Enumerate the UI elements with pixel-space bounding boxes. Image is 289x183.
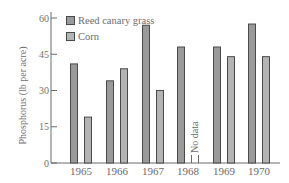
bar-corn-1967 bbox=[157, 91, 164, 164]
y-tick-label: 15 bbox=[39, 121, 49, 132]
legend-swatch-reed-icon bbox=[66, 16, 75, 25]
bar-reed-1969 bbox=[214, 47, 221, 163]
bar-corn-1966 bbox=[121, 69, 128, 163]
bar-corn-1970 bbox=[263, 57, 270, 163]
x-tick-label: 1969 bbox=[213, 165, 236, 177]
x-tick-label: 1965 bbox=[70, 165, 93, 177]
legend: Reed canary grass Corn bbox=[66, 12, 154, 44]
bars: No data bbox=[71, 24, 270, 163]
legend-item-reed: Reed canary grass bbox=[66, 12, 154, 28]
x-tick-label: 1968 bbox=[177, 165, 200, 177]
y-tick-label: 0 bbox=[44, 158, 49, 169]
bar-reed-1967 bbox=[143, 25, 150, 163]
y-axis: 015304560 bbox=[39, 12, 57, 169]
bar-corn-1969 bbox=[228, 57, 235, 163]
y-tick-label: 45 bbox=[39, 49, 49, 60]
y-tick-label: 30 bbox=[39, 85, 49, 96]
no-data-label: No data bbox=[189, 121, 200, 153]
legend-item-corn: Corn bbox=[66, 28, 154, 44]
x-tick-label: 1967 bbox=[142, 165, 165, 177]
x-tick-label: 1966 bbox=[106, 165, 129, 177]
legend-label: Corn bbox=[78, 31, 99, 42]
legend-label: Reed canary grass bbox=[78, 15, 154, 26]
bar-corn-1965 bbox=[85, 117, 92, 163]
y-axis-label: Phosphorus (lb per acre) bbox=[17, 36, 28, 156]
bar-reed-1966 bbox=[107, 81, 114, 163]
bar-reed-1968 bbox=[178, 47, 185, 163]
legend-swatch-corn-icon bbox=[66, 32, 75, 41]
y-tick-label: 60 bbox=[39, 13, 49, 24]
x-tick-label: 1970 bbox=[248, 165, 271, 177]
bar-reed-1965 bbox=[71, 64, 78, 163]
bar-reed-1970 bbox=[249, 24, 256, 163]
x-axis: 196519661967196819691970 bbox=[51, 163, 280, 177]
